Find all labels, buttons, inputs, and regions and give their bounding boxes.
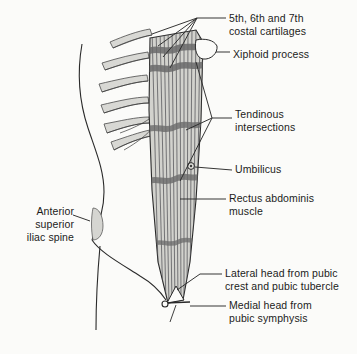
leader-anterior-superior-iliac-spine xyxy=(73,215,90,221)
label-medial-head: Medial head from pubic symphysis xyxy=(229,299,312,325)
label-rectus-abdominis-muscle: Rectus abdominis muscle xyxy=(229,192,314,218)
label-umbilicus: Umbilicus xyxy=(235,163,281,176)
costal-cartilages-group xyxy=(99,29,152,150)
label-anterior-superior-iliac-spine: Anterior superior iliac spine xyxy=(8,205,74,245)
label-xiphoid-process: Xiphoid process xyxy=(233,48,309,61)
label-costal-cartilages: 5th, 6th and 7th costal cartilages xyxy=(229,12,306,38)
leader-umbilicus xyxy=(195,167,232,170)
label-tendinous-intersections: Tendinous intersections xyxy=(235,108,295,134)
label-lateral-head: Lateral head from pubic crest and pubic … xyxy=(225,267,339,293)
anatomy-figure: 5th, 6th and 7th costal cartilages Xipho… xyxy=(0,0,357,354)
xiphoid-process-marker xyxy=(195,39,217,59)
